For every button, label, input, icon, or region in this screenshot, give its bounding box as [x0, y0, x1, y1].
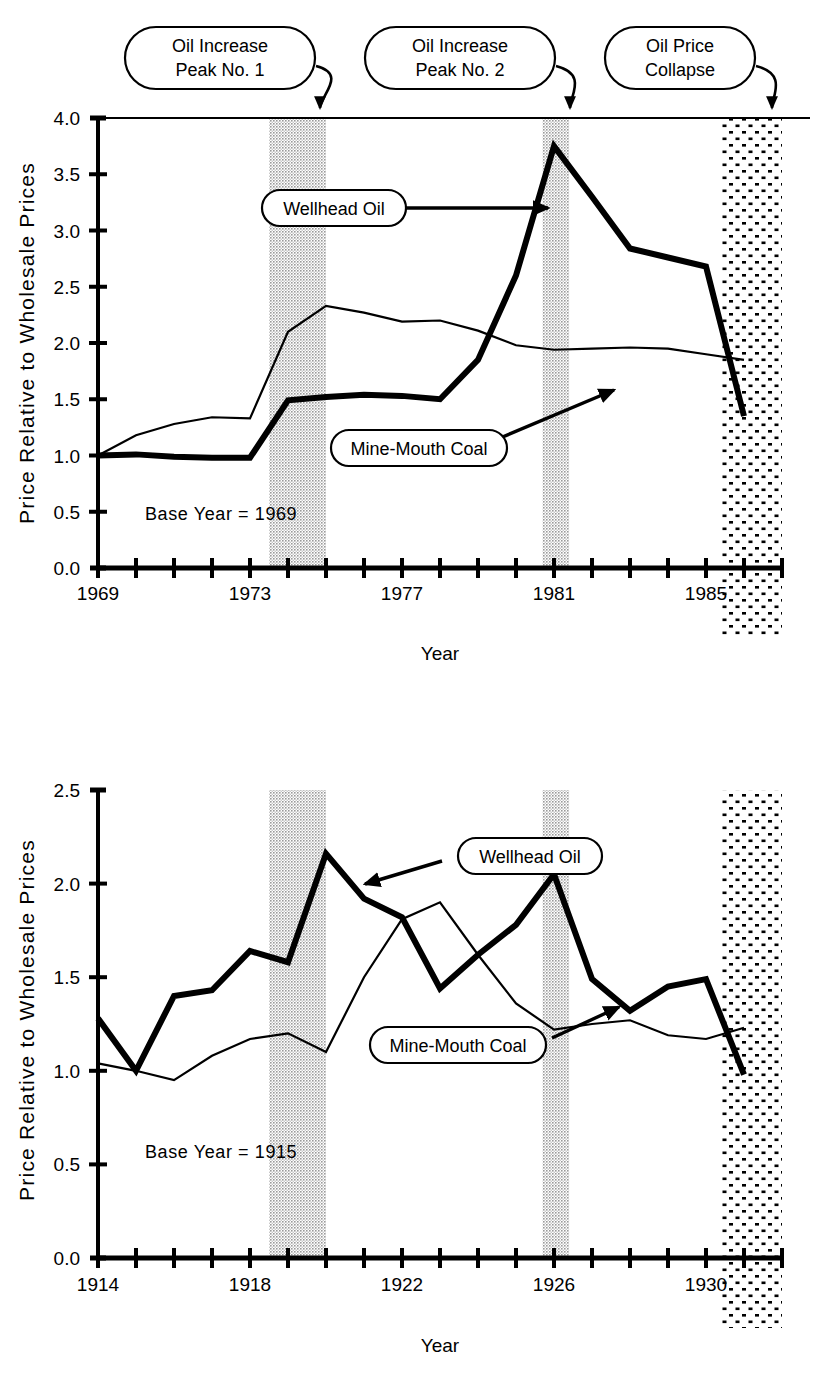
callout-wellhead-oil-bottom-label: Wellhead Oil [479, 847, 581, 867]
callout-peak2-line: Oil Increase [412, 36, 508, 56]
x-tick-label: 1969 [77, 583, 119, 604]
event-leader-collapse [756, 66, 776, 108]
y-tick-label: 1.0 [54, 1061, 80, 1082]
callout-peak1-line: Oil Increase [172, 36, 268, 56]
y-tick-label: 2.5 [54, 277, 80, 298]
y-axis: 0.00.51.01.52.02.53.03.54.0 [54, 108, 107, 579]
x-tick-label: 1926 [533, 1274, 575, 1295]
x-axis-title: Year [421, 643, 460, 664]
band-oil-price-collapse [721, 790, 782, 1328]
y-tick-label: 0.5 [54, 502, 80, 523]
y-tick-label: 2.0 [54, 333, 80, 354]
y-tick-label: 0.5 [54, 1154, 80, 1175]
callout-peak2: Oil IncreasePeak No. 2 [365, 27, 555, 89]
callout-mine-mouth-coal-top-label: Mine-Mouth Coal [350, 439, 487, 459]
callout-collapse-line: Oil Price [646, 36, 714, 56]
callout-mine-mouth-coal-top: Mine-Mouth Coal [331, 430, 507, 466]
x-axis-title: Year [421, 1335, 460, 1356]
chart-panel-top-panel: 0.00.51.01.52.02.53.03.54.01969197319771… [15, 108, 810, 664]
y-tick-label: 3.0 [54, 221, 80, 242]
band-oil-increase-peak-1 [269, 118, 326, 568]
callout-peak1: Oil IncreasePeak No. 1 [125, 27, 315, 89]
y-tick-label: 1.0 [54, 446, 80, 467]
event-leader-peak1 [316, 66, 331, 108]
callout-wellhead-oil-top-label: Wellhead Oil [283, 199, 385, 219]
callout-wellhead-oil-bottom: Wellhead Oil [458, 838, 602, 874]
x-tick-label: 1918 [229, 1274, 271, 1295]
y-tick-label: 0.0 [54, 558, 80, 579]
y-tick-label: 1.5 [54, 967, 80, 988]
base-year-note: Base Year = 1915 [145, 1142, 297, 1162]
callout-collapse-line: Collapse [645, 60, 715, 80]
series-line-wellhead-oil [98, 146, 744, 458]
price-relative-figure: 0.00.51.01.52.02.53.03.54.01969197319771… [0, 0, 813, 1391]
y-tick-label: 2.5 [54, 780, 80, 801]
y-axis-title: Price Relative to Wholesale Prices [15, 839, 38, 1201]
data-series [98, 146, 744, 458]
y-tick-label: 1.5 [54, 389, 80, 410]
x-tick-label: 1985 [685, 583, 727, 604]
x-tick-label: 1973 [229, 583, 271, 604]
chart-panel-bottom-panel: 0.00.51.01.52.02.519141918192219261930Ye… [15, 780, 782, 1356]
x-tick-label: 1981 [533, 583, 575, 604]
callout-peak1-line: Peak No. 1 [175, 60, 264, 80]
callout-wellhead-oil-top: Wellhead Oil [262, 190, 406, 226]
chart-canvas: 0.00.51.01.52.02.53.03.54.01969197319771… [0, 0, 813, 1391]
band-oil-price-collapse [721, 118, 782, 638]
x-tick-label: 1977 [381, 583, 423, 604]
y-axis-title: Price Relative to Wholesale Prices [15, 162, 38, 524]
x-tick-label: 1922 [381, 1274, 423, 1295]
y-tick-label: 0.0 [54, 1248, 80, 1269]
base-year-note: Base Year = 1969 [145, 504, 297, 524]
x-tick-label: 1930 [685, 1274, 727, 1295]
wellhead-oil-leader-bottom [365, 861, 442, 884]
callout-peak2-line: Peak No. 2 [415, 60, 504, 80]
band-oil-increase-peak-2 [543, 118, 570, 568]
y-tick-label: 2.0 [54, 874, 80, 895]
callout-mine-mouth-coal-bottom-label: Mine-Mouth Coal [389, 1036, 526, 1056]
x-tick-label: 1914 [77, 1274, 120, 1295]
x-axis: 19141918192219261930 [77, 1248, 782, 1295]
y-tick-label: 3.5 [54, 164, 80, 185]
callout-mine-mouth-coal-bottom: Mine-Mouth Coal [370, 1027, 546, 1063]
event-leader-peak2 [556, 66, 575, 108]
x-axis: 19691973197719811985 [77, 558, 782, 604]
band-oil-increase-peak-1 [269, 790, 326, 1258]
callout-collapse: Oil PriceCollapse [605, 27, 755, 89]
y-tick-label: 4.0 [54, 108, 80, 129]
